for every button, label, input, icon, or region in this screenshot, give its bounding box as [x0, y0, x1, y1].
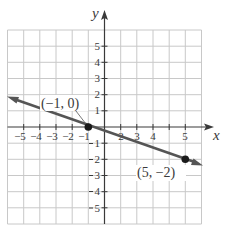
x-tick-label: −3	[46, 130, 58, 142]
y-tick-label: 2	[95, 153, 101, 165]
x-tick-label: 4	[150, 130, 156, 142]
x-tick-labels: −5 −4 −3 −2 −1 2 3 4 5	[14, 130, 188, 142]
x-tick-label: −1	[78, 130, 90, 142]
y-tick-label: 5	[95, 40, 101, 52]
y-tick-label: 4	[95, 56, 101, 68]
y-tick-label: 1	[95, 104, 101, 116]
point-a	[85, 123, 93, 131]
y-tick-label: 5	[95, 202, 101, 214]
x-tick-label: −5	[14, 130, 26, 142]
x-axis-label: x	[212, 127, 220, 143]
line-left-arrow-icon	[7, 97, 19, 104]
point-b	[182, 156, 190, 164]
x-tick-label: 5	[182, 130, 188, 142]
y-tick-label: 3	[95, 169, 101, 181]
y-axis-label: y	[90, 5, 99, 21]
y-negative-dashes	[89, 144, 93, 209]
x-tick-label: −2	[62, 130, 74, 142]
y-tick-label: 4	[95, 185, 101, 197]
y-tick-label: 2	[95, 88, 101, 100]
x-tick-label: −4	[30, 130, 42, 142]
y-tick-label: 3	[95, 72, 101, 84]
point-b-label: (5, −2)	[137, 165, 176, 181]
y-tick-label: 1	[95, 137, 101, 149]
point-a-label: (−1, 0)	[41, 96, 80, 112]
coordinate-plane: −5 −4 −3 −2 −1 2 3 4 5 5 4 3 2 1 1 2 3 4…	[0, 0, 230, 235]
